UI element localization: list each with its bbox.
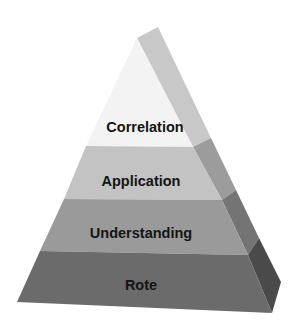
level-label-correlation: Correlation — [106, 119, 183, 135]
level-label-understanding: Understanding — [90, 225, 192, 241]
level-label-rote: Rote — [125, 277, 157, 293]
pyramid-diagram: Correlation Application Understanding Ro… — [0, 0, 299, 330]
level-label-application: Application — [102, 173, 181, 189]
